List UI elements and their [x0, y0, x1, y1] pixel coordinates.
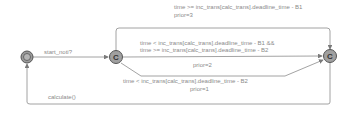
committed-state-1[interactable]: C: [110, 51, 123, 64]
committed-state-2[interactable]: C: [324, 50, 337, 63]
svg-text:C: C: [113, 53, 119, 62]
label-mid-prior: prior=2: [193, 62, 212, 69]
edge-middle[interactable]: [123, 56, 322, 57]
label-top-guard: time >= inc_trans[calc_trans].deadline_t…: [174, 4, 302, 11]
label-return-update: calculate(): [48, 94, 76, 101]
label-start-sync: start_noti?: [44, 49, 72, 56]
svg-text:C: C: [327, 52, 333, 61]
initial-state[interactable]: [21, 51, 33, 63]
label-bot-guard: time < inc_trans[calc_trans].deadline_ti…: [123, 78, 248, 85]
label-mid-guard-2: time >= inc_trans[calc_trans].deadline_t…: [140, 47, 268, 54]
label-bot-prior: prior=1: [190, 86, 209, 93]
label-top-prior: prior=3: [174, 12, 193, 19]
edge-bottom[interactable]: [121, 60, 323, 76]
label-mid-guard-1: time < inc_trans[calc_trans].deadline_ti…: [140, 40, 275, 47]
